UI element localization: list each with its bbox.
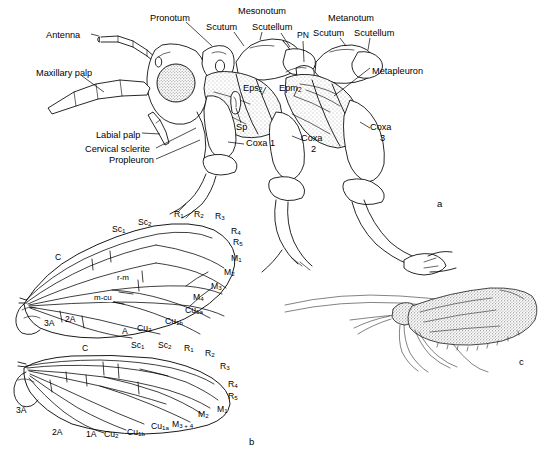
label-hw-vein-r4: R4 (228, 380, 238, 390)
label-meta-scutum: Scutum (313, 29, 344, 39)
label-hw-vein-cu1b: Cu1b (127, 428, 145, 438)
label-hw-vein-m1: M1 (217, 405, 228, 415)
maxillary-palp-drawing (48, 80, 150, 114)
label-mesonotum: Mesonotum (238, 7, 286, 17)
label-vein-m3: M3 (211, 282, 222, 292)
panel-letter-a: a (437, 199, 442, 209)
label-vein-r3: R3 (215, 212, 225, 222)
label-hw-vein-r3: R3 (220, 362, 230, 372)
label-postnotum: PN (297, 31, 309, 40)
label-cervical-sclerite: Cervical sclerite (85, 145, 150, 155)
label-episternum-2: Eps2 (243, 84, 263, 94)
coxa3-leg-drawing (343, 100, 456, 275)
label-vein-sc1: Sc1 (112, 225, 125, 235)
label-meta-scutellum: Scutellum (354, 29, 394, 39)
label-hw-vein-m2: M2 (198, 410, 209, 420)
label-coxa-3-line2: 3 (380, 134, 385, 144)
label-hw-vein-sc2: Sc2 (158, 341, 171, 351)
panel-letter-b: b (249, 437, 254, 447)
label-vein-m1: M1 (231, 254, 242, 264)
label-hw-vein-m34: M3 + 4 (172, 420, 193, 430)
label-spiracle: Sp (236, 123, 247, 133)
label-hw-vein-1a: 1A (86, 430, 97, 440)
label-vein-2a: 2A (65, 315, 76, 325)
label-epimeron-2: Epm2 (279, 84, 302, 94)
label-vein-cu1b: Cu1b (165, 317, 183, 327)
label-coxa-2-line1: Coxa (301, 134, 322, 144)
panel-letter-c: c (519, 357, 524, 367)
label-hw-vein-r1: R1 (184, 344, 194, 354)
label-hw-vein-3a: 3A (16, 406, 27, 416)
label-meso-scutellum: Scutellum (252, 23, 292, 33)
label-vein-m4: M4 (193, 293, 204, 303)
label-crossvein-m-cu: m-cu (93, 294, 113, 302)
label-vein-r5: R5 (233, 238, 243, 248)
label-propleuron: Propleuron (109, 156, 154, 166)
label-vein-a: A (122, 327, 128, 337)
label-coxa-1: Coxa 1 (246, 139, 275, 149)
label-metanotum: Metanotum (328, 14, 374, 24)
label-pronotum: Pronotum (150, 14, 190, 24)
label-vein-cu1a: Cu1a (185, 306, 203, 316)
label-labial-palp: Labial palp (96, 131, 140, 141)
panel-c-artwork (285, 288, 537, 372)
metanotum-drawing (315, 45, 383, 83)
label-coxa-2-line2: 2 (311, 145, 316, 155)
label-hw-vein-2a: 2A (52, 428, 63, 438)
figure-canvas: Antenna Maxillary palp Labial palp Cervi… (0, 0, 542, 457)
label-metapleuron: Metapleuron (372, 67, 423, 77)
label-crossvein-r-m: r-m (116, 274, 130, 282)
label-hw-vein-costa: C (82, 344, 88, 354)
label-hw-vein-sc1: Sc1 (131, 341, 144, 351)
label-vein-sc2: Sc2 (138, 218, 151, 228)
label-vein-cu2: Cu2 (137, 324, 151, 334)
label-vein-m2: M2 (224, 268, 235, 278)
label-meso-scutum: Scutum (206, 23, 237, 33)
label-hw-vein-r2: R2 (205, 349, 215, 359)
label-hw-vein-r5: R5 (228, 392, 238, 402)
label-coxa-3-line1: Coxa (370, 123, 391, 133)
label-vein-r1: R1 (174, 210, 184, 220)
label-vein-3a: 3A (44, 319, 55, 329)
label-antenna: Antenna (46, 31, 80, 41)
label-hw-vein-cu2: Cu2 (104, 430, 118, 440)
label-vein-costa: C (55, 253, 61, 263)
antenna-drawing (98, 36, 159, 65)
label-maxillary-palp: Maxillary palp (36, 69, 92, 79)
label-vein-r2: R2 (194, 210, 204, 220)
head-drawing (147, 44, 208, 124)
label-hw-vein-cu1a: Cu1a (151, 422, 169, 432)
label-vein-r4: R4 (231, 227, 241, 237)
hindwing-artwork (14, 355, 230, 434)
